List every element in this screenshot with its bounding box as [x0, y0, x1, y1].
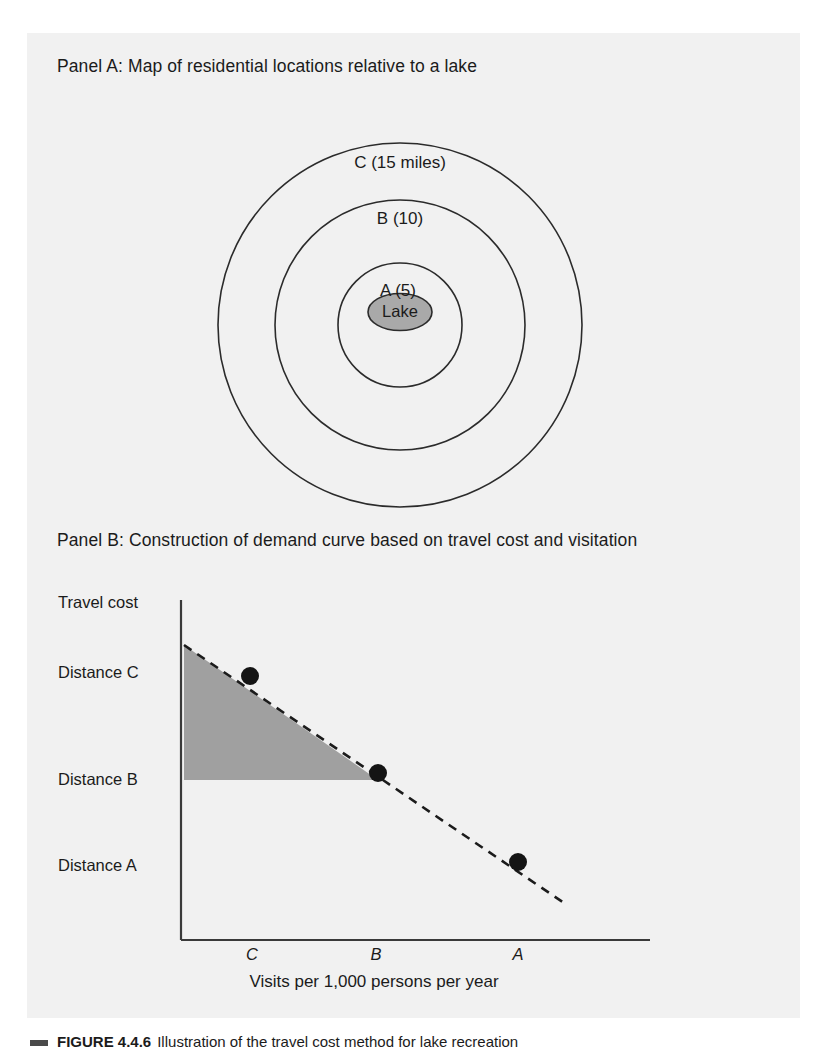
ring-label-a: A (5) [380, 281, 416, 301]
y-tick-label-distance-a: Distance A [58, 856, 137, 875]
y-axis-title: Travel cost [58, 593, 138, 612]
figure-caption: FIGURE 4.4.6Illustration of the travel c… [30, 1034, 810, 1050]
panel-b-demand-chart: Travel cost Distance C Distance B Distan… [40, 575, 700, 1005]
caption-number: FIGURE 4.4.6 [57, 1034, 151, 1050]
ring-label-b: B (10) [377, 209, 423, 229]
data-point-b [369, 764, 387, 782]
x-tick-label-b: B [370, 945, 381, 964]
panel-a-concentric-map: C (15 miles) B (10) A (5) Lake [180, 120, 620, 530]
concentric-rings-svg [180, 120, 620, 530]
panel-b-title: Panel B: Construction of demand curve ba… [57, 530, 637, 551]
x-tick-label-a: A [512, 945, 523, 964]
figure-root: Panel A: Map of residential locations re… [0, 0, 822, 1050]
x-tick-label-c: C [246, 945, 258, 964]
panel-a-title: Panel A: Map of residential locations re… [57, 56, 477, 77]
caption-marker-icon [30, 1040, 48, 1046]
lake-label: Lake [382, 302, 418, 321]
y-tick-label-distance-b: Distance B [58, 770, 138, 789]
y-tick-label-distance-c: Distance C [58, 663, 139, 682]
demand-curve-svg [40, 575, 700, 1005]
data-point-a [509, 853, 527, 871]
caption-text: Illustration of the travel cost method f… [157, 1034, 518, 1050]
ring-label-c: C (15 miles) [354, 153, 446, 173]
x-axis-title: Visits per 1,000 persons per year [249, 972, 498, 992]
data-point-c [241, 667, 259, 685]
